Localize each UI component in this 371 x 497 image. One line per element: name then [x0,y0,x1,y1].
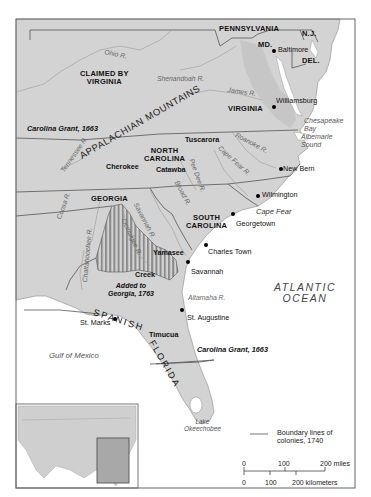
scale-miles-200: 200 miles [320,460,350,467]
label-claimed-by-virginia: CLAIMED BY VIRGINIA [80,70,129,85]
label-cape-fear: Cape Fear [256,208,291,216]
label-albemarle-sound: Albemarle Sound [301,133,333,148]
label-creek: Creek [135,271,155,278]
lake-okeechobee [190,397,202,413]
label-virginia: VIRGINIA [228,105,263,113]
legend-boundary-label: Boundary lines of colonies, 1740 [277,429,333,446]
label-st-marks: St. Marks [80,319,110,326]
label-yamasee: Yamasee [153,249,184,256]
label-added-to-georgia: Added to Georgia, 1763 [108,282,154,298]
label-tuscarora: Tuscarora [185,136,219,143]
label-charles-town: Charles Town [208,248,251,255]
label-timucua: Timucua [149,331,178,338]
label-delaware: DEL. [302,57,320,65]
label-georgia: GEORGIA [91,195,128,203]
label-lake-okeechobee: Lake Okeechobee [184,418,221,432]
label-pennsylvania: PENNSYLVANIA [219,25,279,33]
scale-km-0: 0 [242,479,246,486]
inset-map [16,404,138,488]
label-new-jersey: N.J. [302,30,317,38]
label-south-carolina: SOUTH CAROLINA [186,214,227,229]
label-north-carolina: NORTH CAROLINA [144,147,185,162]
scale-km-200: 200 kilometers [292,479,338,486]
label-shenandoah-river: Shenandoah R. [157,76,204,83]
label-gulf-of-mexico: Gulf of Mexico [49,352,99,360]
label-atlantic-ocean: ATLANTIC OCEAN [274,282,336,304]
label-st-augustine: St. Augustine [187,314,229,321]
scale-miles-100: 100 [278,460,290,467]
label-williamsburg: Williamsburg [276,97,317,104]
label-savannah: Savannah [191,268,223,275]
label-maryland: MD. [258,41,272,49]
label-carolina-grant-north: Carolina Grant, 1663 [27,125,98,132]
scale-km-100: 100 [265,479,277,486]
label-altamaha-river: Altamaha R. [188,295,225,302]
label-new-bern: New Bern [283,165,315,172]
label-cherokee: Cherokee [106,163,139,170]
label-chesapeake-bay: Chesapeake Bay [304,117,343,132]
inset-highlight-box [97,438,129,483]
scale-miles-0: 0 [242,460,246,467]
label-wilmington: Wilmington [262,191,298,198]
label-georgetown: Georgetown [236,220,275,227]
label-carolina-grant-south: Carolina Grant, 1663 [197,346,268,353]
label-baltimore: Baltimore [278,46,308,53]
label-catawba: Catawba [156,166,186,173]
